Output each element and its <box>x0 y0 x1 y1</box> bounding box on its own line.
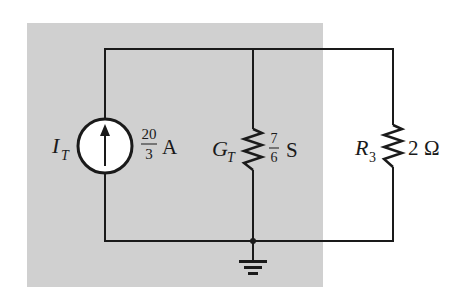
conductance-symbol-label: G <box>212 136 228 161</box>
current-source <box>78 119 132 173</box>
source-value-numerator: 20 <box>142 126 157 142</box>
conductance-value-denominator: 6 <box>271 150 278 165</box>
r3-resistor-zigzag <box>384 125 402 167</box>
conductance-unit-label: S <box>286 138 298 162</box>
conductance-value-numerator: 7 <box>271 131 278 146</box>
r3-unit-label: Ω <box>424 136 440 160</box>
r3-value-label: 2 <box>408 136 419 160</box>
junction-dot <box>250 238 256 244</box>
source-value-denominator: 3 <box>145 146 153 162</box>
r3-subscript-label: 3 <box>369 150 376 165</box>
conductance-subscript-label: T <box>227 150 236 165</box>
circuit-diagram: I T 20 3 A G T 7 6 S R 3 2 Ω <box>0 0 456 298</box>
r3-symbol-label: R <box>354 135 369 160</box>
source-subscript-label: T <box>61 148 70 163</box>
source-unit-label: A <box>162 135 178 159</box>
